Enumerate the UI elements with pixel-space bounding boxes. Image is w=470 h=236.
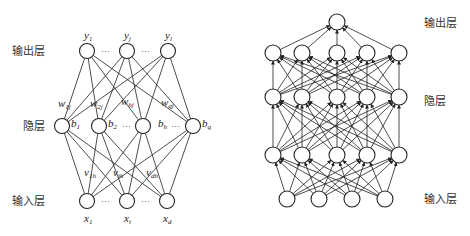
input-neuron [120,194,135,209]
hidden-2-neuron [359,89,375,105]
connection-edge [67,132,122,196]
input-ellipsis-2: ··· [141,196,150,206]
left-output-layer-label: 输出层 [12,44,45,58]
output-ellipsis-2: ··· [141,46,150,56]
input-neuron [279,191,295,207]
hidden-3-neuron [329,45,345,61]
hidden-2-neuron [294,89,310,105]
output-neuron [329,14,345,30]
right-hidden-layer-label: 隐层 [424,95,446,108]
input-neuron [160,194,175,209]
connection-edge [67,57,122,121]
hidden-ellipsis-1: ··· [122,121,131,131]
weight-label-w1j: w1j [58,97,71,111]
hidden-1-neuron [265,147,281,163]
hidden-bias-bq: bq [202,117,212,131]
left-hidden-layer-label: 隐层 [23,120,45,133]
input-neuron [311,191,327,207]
output-neuron [80,44,95,59]
connection-edge [343,28,362,48]
input-neuron [377,191,393,207]
connection-edge [275,163,284,192]
weight-label-v1h: v1h [84,166,96,180]
hidden-bias-bh: bh [158,117,168,131]
right-output-layer-label: 输出层 [424,16,457,30]
hidden-neuron [92,119,107,134]
hidden-neuron [55,119,70,134]
hidden-1-neuron [329,147,345,163]
input-neuron [344,191,360,207]
hidden-neuron [136,119,151,134]
input-label-x1: x1 [83,212,92,226]
input-neuron [80,194,95,209]
connection-edge [169,133,190,194]
hidden-neuron [186,119,201,134]
hidden-2-neuron [265,89,281,105]
hidden-ellipsis-2: ··· [171,121,180,131]
output-ellipsis-1: ··· [101,46,110,56]
neural-network-diagrams: 输出层 隐层 输入层 y1 yj yl ··· ··· b1 b2 ··· bh… [0,0,470,236]
output-label-yl: yl [164,29,172,43]
hidden-bias-b1: b1 [71,117,80,131]
hidden-1-neuron [294,147,310,163]
single-hidden-layer-network: 输出层 隐层 输入层 y1 yj yl ··· ··· b1 b2 ··· bh… [12,29,212,226]
hidden-3-neuron [391,45,407,61]
hidden-bias-b2: b2 [108,117,118,131]
connection-edge [145,58,165,119]
connection-edge [309,159,378,196]
multi-layer-feedforward-network: 输出层 隐层 输入层 [265,14,457,207]
connection-edge [64,133,84,194]
hidden-1-neuron [391,147,407,163]
weight-label-whj: whj [121,95,134,109]
connection-edge [387,163,396,192]
hidden-3-neuron [359,45,375,61]
hidden-2-neuron [329,89,345,105]
left-input-layer-label: 输入层 [12,194,45,208]
right-input-layer-label: 输入层 [424,192,457,206]
input-label-xi: xi [123,212,131,226]
connection-edge [88,133,98,193]
hidden-3-neuron [265,45,281,61]
hidden-3-neuron [294,45,310,61]
output-label-y1: y1 [83,29,92,43]
hidden-1-neuron [359,147,375,163]
right-nodes [265,14,407,207]
output-neuron [120,44,135,59]
input-ellipsis-1: ··· [101,196,110,206]
weight-label-vih: vih [113,166,124,180]
hidden-2-neuron [391,89,407,105]
input-label-xd: xd [162,212,172,226]
connection-edge [145,133,164,194]
weight-label-w2j: w2j [90,97,103,111]
output-neuron [161,44,176,59]
weight-label-wqj: wqj [161,96,174,110]
output-label-yj: yj [123,29,131,43]
connection-edge [91,132,138,195]
